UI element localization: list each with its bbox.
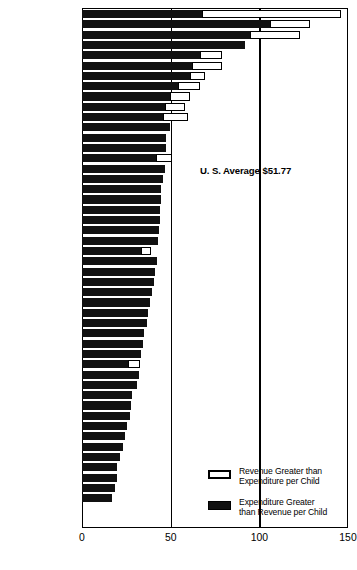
state-label: Indiana — [0, 286, 80, 296]
bar-segment-expenditure-greater — [82, 62, 192, 70]
bar-segment-revenue-greater — [178, 82, 200, 90]
bar-segment-expenditure-greater — [82, 319, 147, 327]
bar-segment-expenditure-greater — [82, 123, 170, 131]
bar-segment-expenditure-greater — [82, 257, 157, 265]
bar-segment-expenditure-greater — [82, 72, 190, 80]
state-label: Utah — [0, 317, 80, 327]
bar-segment-expenditure-greater — [82, 391, 132, 399]
state-label: Massachusetts — [0, 60, 80, 70]
bar-segment-expenditure-greater — [82, 381, 137, 389]
legend-line-1: Expenditure Greater — [239, 497, 315, 507]
bar-segment-expenditure-greater — [82, 175, 163, 183]
state-label: Pennsylvania — [0, 173, 80, 183]
state-label: Oklahoma — [0, 389, 80, 399]
state-label: Maine — [0, 296, 80, 306]
state-label: North Dakota — [0, 369, 80, 379]
bar-segment-expenditure-greater — [82, 206, 160, 214]
state-label: Connecticut — [0, 70, 80, 80]
state-label: Arizona — [0, 379, 80, 389]
bar-segment-expenditure-greater — [82, 288, 152, 296]
bar-segment-expenditure-greater — [82, 10, 202, 18]
state-label: South Dakota — [0, 348, 80, 358]
bar-segment-expenditure-greater — [82, 484, 115, 492]
state-label: New Hampshire — [0, 183, 80, 193]
state-label: Minnesota — [0, 214, 80, 224]
state-label: Oregon — [0, 80, 80, 90]
us-average-annotation: U. S. Average $51.77 — [200, 165, 291, 176]
bar-segment-revenue-greater — [128, 360, 140, 368]
state-label: Tennessee — [0, 399, 80, 409]
bar-segment-expenditure-greater — [82, 195, 161, 203]
bar-segment-expenditure-greater — [82, 401, 131, 409]
state-label: Nevada — [0, 18, 80, 28]
state-label: Alabama — [0, 472, 80, 482]
bar-segment-expenditure-greater — [82, 113, 163, 121]
bar-segment-expenditure-greater — [82, 226, 159, 234]
state-label: Mississippi — [0, 492, 80, 502]
bar-segment-revenue-greater — [202, 10, 341, 18]
bar-segment-revenue-greater — [200, 51, 222, 59]
bar-segment-expenditure-greater — [82, 278, 154, 286]
bar-segment-revenue-greater — [156, 154, 171, 162]
state-label: Vermont — [0, 307, 80, 317]
bar-segment-revenue-greater — [163, 113, 187, 121]
bar-segment-expenditure-greater — [82, 237, 158, 245]
x-axis-tick-label: 0 — [79, 532, 85, 543]
bar-segment-expenditure-greater — [82, 494, 112, 502]
legend-item-revenue-greater: Revenue Greater than Expenditure per Chi… — [208, 468, 354, 490]
bar-segment-expenditure-greater — [82, 92, 170, 100]
state-label: Wyoming — [0, 101, 80, 111]
state-label: Michigan — [0, 235, 80, 245]
bar-segment-expenditure-greater — [82, 463, 117, 471]
state-label: Maryland — [0, 111, 80, 121]
bar-segment-expenditure-greater — [82, 247, 141, 255]
bar-segment-expenditure-greater — [82, 474, 117, 482]
bar-segment-revenue-greater — [190, 72, 205, 80]
bar-segment-expenditure-greater — [82, 371, 139, 379]
legend-swatch-black-icon — [208, 501, 231, 510]
bar-segment-expenditure-greater — [82, 165, 165, 173]
legend-label-expenditure-greater: Expenditure Greater than Revenue per Chi… — [239, 497, 327, 518]
legend-label-revenue-greater: Revenue Greater than Expenditure per Chi… — [239, 466, 322, 487]
bar-segment-expenditure-greater — [82, 103, 165, 111]
x-axis-tick-label: 100 — [251, 532, 268, 543]
bar-segment-revenue-greater — [270, 20, 310, 28]
state-label: Kentucky — [0, 430, 80, 440]
bar-segment-expenditure-greater — [82, 422, 127, 430]
state-label: Arkansas — [0, 461, 80, 471]
state-label: North Carolina — [0, 420, 80, 430]
bar-segment-expenditure-greater — [82, 309, 148, 317]
legend-item-expenditure-greater: Expenditure Greater than Revenue per Chi… — [208, 499, 354, 521]
state-label: Rhode Island — [0, 90, 80, 100]
state-label: Montana — [0, 121, 80, 131]
bar-segment-expenditure-greater — [82, 298, 150, 306]
state-label: Nebraska — [0, 163, 80, 173]
bar-segment-expenditure-greater — [82, 360, 128, 368]
bar-segment-expenditure-greater — [82, 134, 166, 142]
state-label: Washington — [0, 224, 80, 234]
state-label: Iowa — [0, 193, 80, 203]
state-label: Idaho — [0, 266, 80, 276]
bar-segment-expenditure-greater — [82, 268, 155, 276]
bar-segment-revenue-greater — [192, 62, 222, 70]
legend-line-1: Revenue Greater than — [239, 466, 322, 476]
x-axis-tick-label: 50 — [165, 532, 177, 543]
state-label: Colorado — [0, 255, 80, 265]
chart-legend: Revenue Greater than Expenditure per Chi… — [208, 468, 354, 530]
bar-segment-expenditure-greater — [82, 340, 143, 348]
bar-segment-expenditure-greater — [82, 20, 270, 28]
legend-line-2: Expenditure per Child — [239, 476, 320, 486]
bar-segment-revenue-greater — [170, 92, 190, 100]
state-label: Virginia — [0, 358, 80, 368]
bar-segment-expenditure-greater — [82, 144, 166, 152]
bar-segment-expenditure-greater — [82, 185, 161, 193]
bar-segment-revenue-greater — [141, 247, 151, 255]
bar-segment-expenditure-greater — [82, 329, 144, 337]
bar-segment-expenditure-greater — [82, 412, 130, 420]
legend-swatch-white-icon — [208, 470, 231, 479]
state-label: West Virginia — [0, 338, 80, 348]
state-label: New Mexico — [0, 410, 80, 420]
bar-segment-expenditure-greater — [82, 82, 178, 90]
state-label: Ohio — [0, 132, 80, 142]
